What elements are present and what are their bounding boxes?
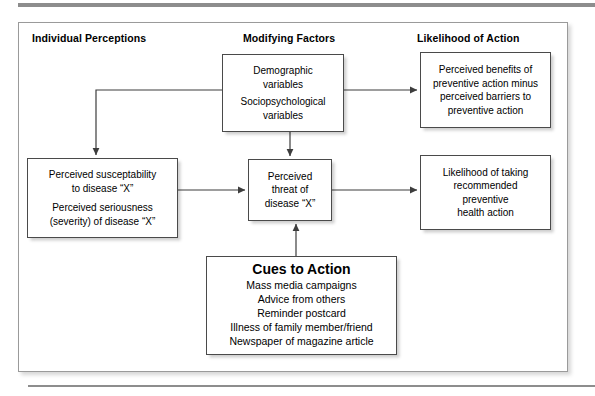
node-text-line: variables	[263, 78, 303, 92]
node-text-line: Sociopsychological	[240, 95, 325, 109]
node-modifying-factors: Demographic variables Sociopsychological…	[222, 54, 344, 132]
node-text-line: Perceived	[268, 170, 312, 184]
node-text-line: disease “X”	[265, 197, 316, 211]
node-text-line: Reminder postcard	[257, 306, 346, 320]
node-text-line: Perceived susceptability	[49, 168, 156, 182]
node-likelihood-of-taking-action: Likelihood of taking recommended prevent…	[420, 155, 551, 230]
node-text-line: (severity) of disease “X”	[50, 215, 156, 229]
node-text-line: recommended	[454, 179, 518, 193]
node-text-line: Likelihood of taking	[443, 166, 529, 180]
node-text-line: health action	[457, 206, 514, 220]
node-text-line: preventive action	[448, 104, 524, 118]
node-text-line: preventive	[462, 193, 508, 207]
node-cues-to-action: Cues to Action Mass media campaigns Advi…	[206, 256, 397, 355]
node-text-line: Advice from others	[258, 292, 346, 306]
node-text-line: perceived barriers to	[440, 90, 531, 104]
node-perceived-threat: Perceived threat of disease “X”	[248, 159, 332, 221]
node-perceived-benefits: Perceived benefits of preventive action …	[420, 52, 551, 128]
node-text-line: variables	[263, 109, 303, 123]
node-title-cues-to-action: Cues to Action	[252, 263, 350, 277]
node-text-line: preventive action minus	[433, 77, 538, 91]
bottom-rule	[28, 385, 595, 387]
node-text-line: Perceived benefits of	[439, 63, 532, 77]
node-text-line: Newspaper of magazine article	[229, 334, 373, 348]
column-header-modifying-factors: Modifying Factors	[243, 32, 335, 44]
node-text-line: Illness of family member/friend	[230, 320, 372, 334]
node-text-line: to disease “X”	[72, 182, 134, 196]
node-perceived-susceptibility-seriousness: Perceived susceptability to disease “X” …	[27, 158, 178, 238]
top-rule	[18, 3, 595, 7]
node-text-line: Demographic	[253, 64, 312, 78]
column-header-individual-perceptions: Individual Perceptions	[32, 32, 146, 44]
node-text-line: threat of	[272, 183, 309, 197]
node-text-line: Mass media campaigns	[246, 278, 356, 292]
column-header-likelihood-of-action: Likelihood of Action	[417, 32, 520, 44]
node-text-line: Perceived seriousness	[52, 201, 153, 215]
